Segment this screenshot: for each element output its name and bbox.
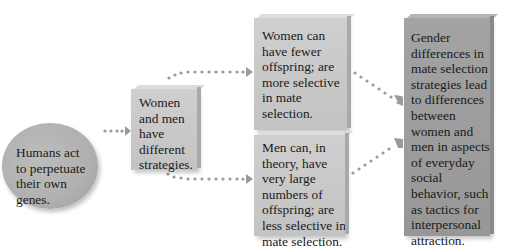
node-text-line: and men	[139, 111, 197, 127]
node-text-line: between	[411, 108, 490, 124]
arrow-men-to-conclusion	[351, 138, 403, 175]
arrow-strategies-to-women	[167, 67, 253, 80]
node-text-line: of everyday	[411, 155, 490, 171]
node-text-line: social	[411, 170, 490, 186]
node-text-line: offspring; are	[262, 59, 347, 75]
node-text-line: Humans act	[16, 145, 98, 161]
node-text-line: Men can, in	[262, 140, 345, 156]
node-text-line: men in aspects	[411, 139, 490, 155]
node-premise: Humans act to perpetuate their own genes…	[2, 123, 98, 209]
node-text-line: less selective in	[262, 218, 345, 234]
node-text-line: in mate	[262, 90, 347, 106]
arrow-strategies-to-men	[166, 172, 253, 184]
node-text-line: selection.	[262, 106, 347, 122]
node-strategies: Women and men have different strategies.	[131, 89, 197, 170]
node-text-line: have fewer	[262, 44, 347, 60]
node-text-line: mate selection.	[262, 234, 345, 249]
node-text-line: behavior, such	[411, 186, 490, 202]
node-text-line: strategies lead	[411, 77, 490, 93]
node-text-line: theory, have	[262, 156, 345, 172]
node-text-line: differences in	[411, 46, 490, 62]
node-text-line: different	[139, 142, 197, 158]
node-text-line: their own	[16, 176, 98, 192]
node-text-line: as tactics for	[411, 202, 490, 218]
node-conclusion: Gender differences in mate selection str…	[404, 18, 490, 236]
node-text-line: strategies.	[139, 157, 197, 173]
node-text-line: have	[139, 126, 197, 142]
node-text-line: women and	[411, 124, 490, 140]
node-men: Men can, in theory, have very large numb…	[254, 135, 345, 236]
node-text-line: mate selection	[411, 61, 490, 77]
node-text-line: to differences	[411, 92, 490, 108]
node-text-line: Women	[139, 95, 197, 111]
node-text-line: very large	[262, 171, 345, 187]
arrow-premise-to-strategies	[103, 126, 131, 136]
arrow-women-to-conclusion	[353, 71, 403, 106]
node-text-line: numbers of	[262, 187, 345, 203]
node-text-line: to perpetuate	[16, 161, 98, 177]
node-text-line: Women can	[262, 28, 347, 44]
node-women: Women can have fewer offspring; are more…	[254, 18, 347, 130]
node-text-line: offspring; are	[262, 202, 345, 218]
node-text-line: Gender	[411, 30, 490, 46]
node-text-line: more selective	[262, 75, 347, 91]
node-text-line: interpersonal	[411, 217, 490, 233]
node-text-line: attraction.	[411, 233, 490, 249]
node-text-line: genes.	[16, 192, 98, 208]
